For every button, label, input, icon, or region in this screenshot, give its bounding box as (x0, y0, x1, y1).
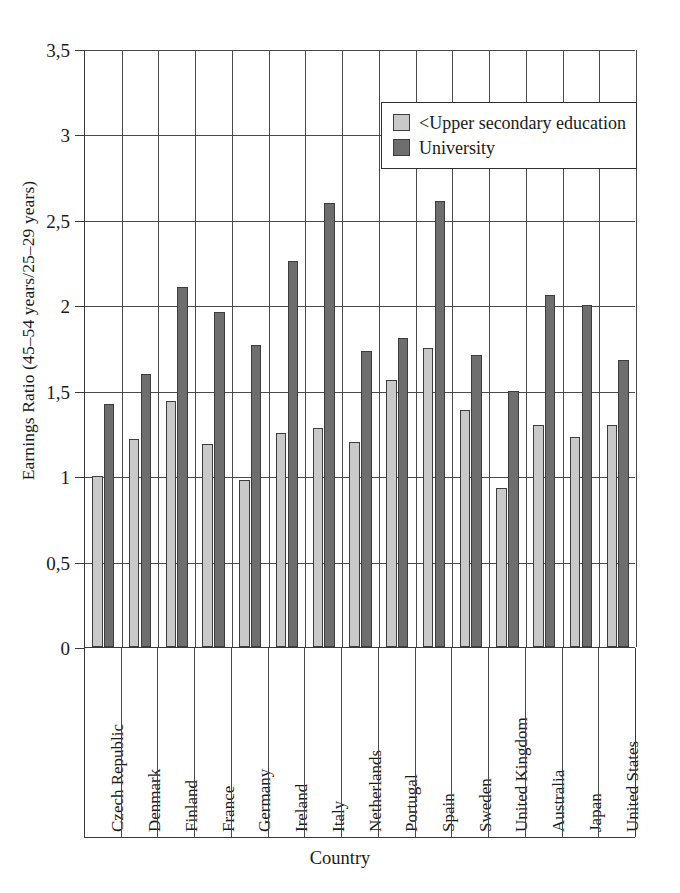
legend-label-university: University (419, 139, 495, 157)
x-axis-tick-label: Ireland (293, 784, 310, 832)
bar (104, 404, 114, 647)
bar (288, 261, 298, 647)
x-axis-tick-label: United Kingdom (513, 717, 530, 832)
x-axis-tick-mark (415, 648, 416, 837)
x-axis-tick-label: Sweden (477, 778, 494, 832)
bar (386, 380, 396, 647)
x-axis-tick-mark (121, 648, 122, 837)
x-axis-tick-mark (451, 648, 452, 837)
y-axis-tick-label: 0,5 (46, 554, 70, 573)
y-axis-title: Earnings Ratio (45–54 years/25–29 years) (18, 26, 39, 636)
bar (251, 345, 261, 647)
bar (398, 338, 408, 647)
y-axis-tick-label: 2 (61, 297, 71, 316)
bar (496, 488, 506, 647)
x-axis-tick-label: Italy (330, 801, 347, 832)
plot-area: <Upper secondary education University (84, 50, 635, 648)
y-axis-tick-mark (75, 648, 84, 649)
x-axis-tick-label: Japan (587, 793, 604, 832)
gridline-x (158, 50, 159, 647)
legend-item-low: <Upper secondary education (393, 110, 626, 135)
bar (435, 201, 445, 647)
bar (508, 391, 518, 647)
y-axis-tick-label: 1,5 (46, 383, 70, 402)
bar (92, 476, 102, 647)
bar (545, 295, 555, 647)
bar (423, 348, 433, 647)
y-axis-tick-mark (75, 221, 84, 222)
x-axis-tick-label: France (220, 786, 237, 832)
x-axis-tick-mark (525, 648, 526, 837)
x-axis-tick-mark (304, 648, 305, 837)
gridline-x (269, 50, 270, 647)
bar (533, 425, 543, 647)
y-axis-tick-label: 2,5 (46, 212, 70, 231)
bar (276, 433, 286, 647)
bar (618, 360, 628, 647)
gridline-x (232, 50, 233, 647)
x-axis-tick-label: Australia (550, 770, 567, 832)
x-axis-tick-label: Spain (440, 793, 457, 832)
x-axis-tick-mark (194, 648, 195, 837)
bar (570, 437, 580, 647)
x-axis-tick-mark (231, 648, 232, 837)
bar (141, 374, 151, 647)
x-axis-tick-mark (268, 648, 269, 837)
x-axis-tick-mark (562, 648, 563, 837)
x-axis-band-bottom-rule (84, 837, 635, 838)
y-axis-tick-mark (75, 50, 84, 51)
bar (177, 287, 187, 648)
legend-swatch-low-education (393, 114, 410, 131)
gridline-y (85, 50, 635, 51)
bar (349, 442, 359, 647)
legend-item-university: University (393, 135, 626, 160)
chart-legend: <Upper secondary education University (381, 102, 637, 169)
x-axis-tick-label: Portugal (403, 774, 420, 832)
x-axis-title: Country (0, 848, 680, 869)
x-axis-tick-mark (598, 648, 599, 837)
bar (607, 425, 617, 647)
bar (239, 480, 249, 647)
x-axis-tick-label: Netherlands (367, 750, 384, 832)
bar (214, 312, 224, 647)
y-axis-tick-mark (75, 477, 84, 478)
y-axis-tick-mark (75, 306, 84, 307)
y-axis-tick-mark (75, 135, 84, 136)
legend-label-low-education: <Upper secondary education (419, 114, 626, 132)
x-axis-tick-label: Denmark (146, 769, 163, 832)
x-axis-tick-label: United States (624, 741, 641, 832)
bar (202, 444, 212, 647)
gridline-x (122, 50, 123, 647)
gridline-x (305, 50, 306, 647)
y-axis-tick-label: 0 (61, 639, 71, 658)
x-axis-tick-label: Germany (256, 769, 273, 832)
bar (471, 355, 481, 647)
gridline-x (195, 50, 196, 647)
x-axis-tick-mark (157, 648, 158, 837)
bar (166, 401, 176, 647)
bar (129, 439, 139, 647)
bar (324, 203, 334, 647)
x-axis-tick-mark (341, 648, 342, 837)
y-axis-tick-mark (75, 392, 84, 393)
x-axis-tick-mark (488, 648, 489, 837)
x-axis-tick-label: Finland (183, 780, 200, 832)
bar (460, 410, 470, 647)
legend-swatch-university (393, 139, 410, 156)
y-axis-tick-label: 3,5 (46, 41, 70, 60)
y-axis-tick-label: 1 (61, 468, 71, 487)
x-axis-tick-mark (378, 648, 379, 837)
chart-figure: Earnings Ratio (45–54 years/25–29 years)… (0, 0, 680, 893)
gridline-y (85, 221, 635, 222)
x-axis-band-edge (635, 648, 636, 837)
gridline-x (379, 50, 380, 647)
bar (361, 351, 371, 647)
x-axis-band-edge (84, 648, 85, 837)
bar (313, 428, 323, 647)
bar (582, 305, 592, 647)
y-axis-tick-label: 3 (61, 126, 71, 145)
x-axis-tick-label: Czech Republic (109, 724, 126, 832)
y-axis-tick-mark (75, 563, 84, 564)
gridline-x (342, 50, 343, 647)
